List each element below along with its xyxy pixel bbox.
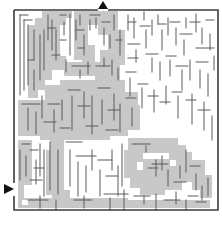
exit-marker [98,1,108,9]
arrow-right-icon [4,184,14,194]
entrance-marker [4,184,14,194]
arrow-up-icon [98,1,108,9]
maze-board[interactable] [0,0,222,226]
